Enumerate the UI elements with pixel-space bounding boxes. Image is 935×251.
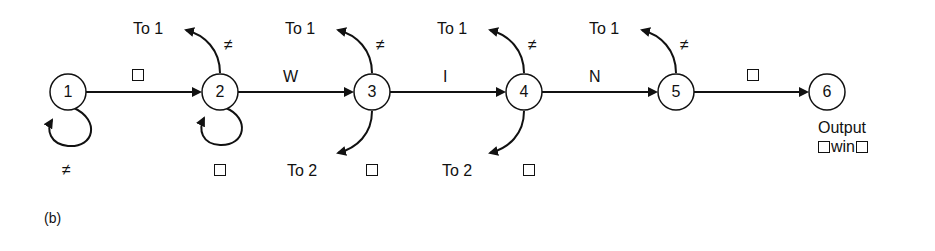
blank-symbol — [818, 141, 830, 153]
branch-sym-5-up: ≠ — [680, 36, 689, 54]
output-title: Output — [818, 119, 866, 137]
edge-label-4-5: N — [589, 68, 601, 86]
edge-label-3-4: I — [443, 68, 447, 86]
self-loop-1 — [49, 108, 91, 146]
branch-2-to-1 — [186, 30, 220, 73]
node-6: 6 — [809, 74, 845, 110]
output-word: win — [831, 138, 855, 155]
branch-3-to-1 — [338, 30, 372, 73]
loop-label-1: ≠ — [62, 161, 71, 179]
branch-sym-4-down — [523, 161, 535, 179]
branch-label-3-down: To 2 — [287, 162, 317, 180]
branch-label-4-up: To 1 — [437, 20, 467, 38]
branch-sym-4-up: ≠ — [528, 36, 537, 54]
branch-label-3-up: To 1 — [285, 20, 315, 38]
edge-label-1-2 — [132, 66, 144, 84]
node-1: 1 — [50, 74, 86, 110]
node-2: 2 — [202, 74, 238, 110]
blank-symbol — [747, 69, 759, 81]
blank-symbol — [523, 164, 535, 176]
branch-4-to-1 — [490, 30, 524, 73]
branch-label-5-up: To 1 — [589, 20, 619, 38]
node-4: 4 — [506, 74, 542, 110]
branch-label-4-down: To 2 — [442, 162, 472, 180]
edge-label-2-3: W — [283, 68, 298, 86]
branch-sym-2-up: ≠ — [224, 36, 233, 54]
blank-symbol — [214, 164, 226, 176]
branch-sym-3-down — [366, 161, 378, 179]
node-5: 5 — [658, 74, 694, 110]
blank-symbol — [132, 69, 144, 81]
blank-symbol — [366, 164, 378, 176]
branch-3-to-2 — [338, 111, 372, 153]
figure-label: (b) — [44, 209, 61, 227]
branch-4-to-2 — [490, 111, 524, 153]
loop-label-2 — [214, 161, 226, 179]
node-3: 3 — [354, 74, 390, 110]
branch-label-2-up: To 1 — [133, 20, 163, 38]
self-loop-2 — [201, 108, 242, 145]
edge-label-5-6 — [747, 66, 759, 84]
branch-5-to-1 — [642, 30, 676, 73]
blank-symbol — [856, 141, 868, 153]
output-value: win — [818, 138, 868, 156]
branch-sym-3-up: ≠ — [376, 36, 385, 54]
